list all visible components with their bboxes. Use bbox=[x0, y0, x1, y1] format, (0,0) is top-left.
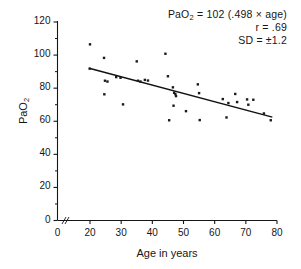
data-point bbox=[175, 95, 177, 97]
data-point bbox=[167, 75, 169, 77]
y-axis-tick-label: 40 bbox=[39, 147, 50, 158]
data-point bbox=[115, 76, 117, 78]
data-point bbox=[252, 99, 254, 101]
y-axis-tick-label: 100 bbox=[34, 48, 51, 59]
data-point bbox=[122, 103, 124, 105]
data-point bbox=[246, 98, 248, 100]
y-axis-tick-label: 60 bbox=[39, 114, 50, 125]
data-point bbox=[199, 119, 201, 121]
data-point bbox=[172, 86, 174, 88]
data-point bbox=[227, 102, 229, 104]
data-point bbox=[222, 98, 224, 100]
x-axis-tick-label: 80 bbox=[257, 227, 297, 238]
data-point bbox=[263, 112, 265, 114]
data-point bbox=[164, 53, 166, 55]
data-point bbox=[106, 80, 108, 82]
data-point bbox=[236, 101, 238, 103]
data-point bbox=[103, 57, 105, 59]
data-point bbox=[144, 79, 146, 81]
y-axis-tick-label: 80 bbox=[39, 81, 50, 92]
regression-line-group bbox=[89, 68, 272, 117]
data-point bbox=[234, 93, 236, 95]
data-point bbox=[136, 60, 138, 62]
data-point bbox=[225, 116, 227, 118]
data-point bbox=[137, 80, 139, 82]
y-axis-ticks bbox=[54, 22, 58, 221]
data-point bbox=[104, 80, 106, 82]
data-point bbox=[198, 92, 200, 94]
data-point bbox=[119, 77, 121, 79]
y-axis-tick-label: 0 bbox=[45, 214, 51, 225]
data-point bbox=[88, 67, 90, 69]
data-point bbox=[89, 43, 91, 45]
data-point bbox=[147, 79, 149, 81]
y-axis-tick-label: 20 bbox=[39, 180, 50, 191]
data-point bbox=[247, 104, 249, 106]
data-point bbox=[139, 80, 141, 82]
data-point bbox=[168, 119, 170, 121]
y-axis-tick-label: 120 bbox=[34, 15, 51, 26]
data-point bbox=[103, 93, 105, 95]
scatter-plot-figure: PaO2 = 102 (.498 × age) r = .69 SD = ±1.… bbox=[0, 0, 301, 269]
regression-line bbox=[89, 68, 272, 117]
data-point bbox=[172, 105, 174, 107]
data-point bbox=[197, 83, 199, 85]
data-point bbox=[185, 110, 187, 112]
data-point bbox=[270, 119, 272, 121]
